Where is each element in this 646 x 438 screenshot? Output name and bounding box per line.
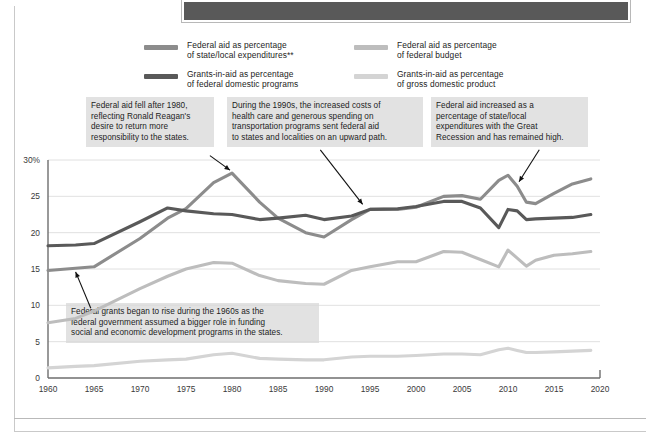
y-axis-tick-label: 10: [31, 300, 40, 310]
x-axis-tick-label: 1960: [39, 384, 58, 394]
leader-1960s: [75, 272, 90, 308]
plot-svg: [48, 160, 600, 378]
legend-item-federal-domestic[interactable]: Grants-in-aid as percentage of federal d…: [144, 69, 334, 90]
leader-line: [519, 150, 539, 182]
leader-reagan: [210, 156, 230, 171]
line-chart: 051015202530% 19601965197019751980198519…: [0, 150, 646, 400]
legend-swatch-icon: [354, 74, 388, 79]
chart-legend: Federal aid as percentage of state/local…: [144, 40, 524, 88]
x-axis-tick-label: 1970: [131, 384, 150, 394]
y-axis-tick-label: 25: [31, 191, 40, 201]
y-axis-tick-label: 5: [35, 337, 40, 347]
annotation-reagan: Federal aid fell after 1980, reflecting …: [86, 97, 214, 147]
x-axis: 1960196519701975198019851990199520002005…: [0, 378, 646, 400]
legend-item-federal-budget[interactable]: Federal aid as percentage of federal bud…: [354, 40, 544, 61]
leader-line: [76, 272, 91, 308]
x-axis-tick-label: 1980: [223, 384, 242, 394]
leader-recession: [519, 150, 539, 182]
series-line-federal-aid-as-percentage-of-federal-budget: [48, 250, 591, 323]
annotation-great-recession: Federal aid increased as a percentage of…: [431, 97, 588, 147]
legend-swatch-icon: [354, 45, 388, 50]
legend-column-left: Federal aid as percentage of state/local…: [144, 40, 334, 98]
top-header-bar: [182, 0, 630, 22]
arrow-head-icon: [519, 176, 524, 182]
bottom-divider: [14, 418, 646, 419]
arrow-head-icon: [224, 165, 230, 170]
legend-label: Federal aid as percentage of federal bud…: [397, 40, 497, 61]
legend-swatch-icon: [144, 45, 178, 50]
x-axis-tick-label: 2015: [545, 384, 564, 394]
x-axis-tick-label: 2020: [591, 384, 610, 394]
x-axis-tick-label: 1965: [85, 384, 104, 394]
x-axis-tick-label: 1995: [361, 384, 380, 394]
annotation-1990s: During the 1990s, the increased costs of…: [227, 97, 423, 147]
legend-item-state-local[interactable]: Federal aid as percentage of state/local…: [144, 40, 334, 61]
x-axis-tick-label: 1990: [315, 384, 334, 394]
legend-label: Grants-in-aid as percentage of gross dom…: [397, 69, 504, 90]
x-axis-tick-label: 2005: [453, 384, 472, 394]
legend-label: Grants-in-aid as percentage of federal d…: [187, 69, 298, 90]
legend-item-gdp[interactable]: Grants-in-aid as percentage of gross dom…: [354, 69, 544, 90]
series-line-federal-aid-as-percentage-of-state-local-expenditures: [48, 173, 591, 270]
series-line-grants-in-aid-as-percentage-of-gross-domestic-product: [48, 348, 591, 368]
legend-column-right: Federal aid as percentage of federal bud…: [354, 40, 544, 98]
y-axis-tick-label: 20: [31, 228, 40, 238]
legend-swatch-icon: [144, 74, 178, 79]
y-axis: 051015202530%: [0, 150, 48, 378]
x-axis-tick-label: 2010: [499, 384, 518, 394]
series-line-grants-in-aid-as-percentage-of-federal-domestic-programs: [48, 201, 591, 245]
x-axis-tick-label: 2000: [407, 384, 426, 394]
y-axis-tick-label: 15: [31, 264, 40, 274]
y-axis-tick-label: 30%: [23, 155, 40, 165]
x-axis-tick-label: 1975: [177, 384, 196, 394]
x-axis-tick-label: 1985: [269, 384, 288, 394]
plot-area: [48, 160, 600, 378]
legend-label: Federal aid as percentage of state/local…: [187, 40, 294, 61]
